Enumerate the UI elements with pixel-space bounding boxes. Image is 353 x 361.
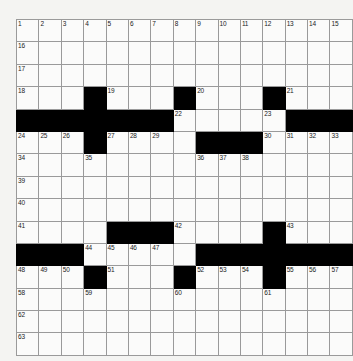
crossword-cell[interactable] bbox=[308, 311, 330, 333]
crossword-cell[interactable] bbox=[106, 64, 128, 86]
crossword-cell[interactable] bbox=[285, 311, 307, 333]
crossword-cell[interactable] bbox=[84, 221, 106, 243]
crossword-cell[interactable] bbox=[196, 42, 218, 64]
crossword-cell[interactable] bbox=[128, 64, 150, 86]
crossword-cell[interactable]: 41 bbox=[17, 221, 39, 243]
crossword-cell[interactable] bbox=[151, 311, 173, 333]
crossword-cell[interactable] bbox=[240, 64, 262, 86]
crossword-cell[interactable] bbox=[308, 288, 330, 310]
crossword-cell[interactable]: 23 bbox=[263, 109, 285, 131]
crossword-cell[interactable] bbox=[285, 154, 307, 176]
crossword-cell[interactable]: 22 bbox=[173, 109, 195, 131]
crossword-cell[interactable] bbox=[196, 109, 218, 131]
crossword-cell[interactable]: 57 bbox=[330, 266, 352, 288]
crossword-cell[interactable] bbox=[128, 311, 150, 333]
crossword-cell[interactable] bbox=[39, 154, 61, 176]
crossword-cell[interactable]: 6 bbox=[128, 20, 150, 42]
crossword-cell[interactable]: 11 bbox=[240, 20, 262, 42]
crossword-cell[interactable] bbox=[173, 311, 195, 333]
crossword-cell[interactable] bbox=[218, 64, 240, 86]
crossword-cell[interactable] bbox=[39, 199, 61, 221]
crossword-cell[interactable] bbox=[39, 333, 61, 355]
crossword-cell[interactable]: 2 bbox=[39, 20, 61, 42]
crossword-cell[interactable] bbox=[218, 42, 240, 64]
crossword-cell[interactable]: 40 bbox=[17, 199, 39, 221]
crossword-cell[interactable] bbox=[263, 64, 285, 86]
crossword-cell[interactable]: 34 bbox=[17, 154, 39, 176]
crossword-cell[interactable] bbox=[61, 221, 83, 243]
crossword-cell[interactable] bbox=[39, 288, 61, 310]
crossword-cell[interactable] bbox=[308, 87, 330, 109]
crossword-cell[interactable] bbox=[330, 311, 352, 333]
crossword-cell[interactable]: 33 bbox=[330, 131, 352, 153]
crossword-cell[interactable] bbox=[128, 42, 150, 64]
crossword-cell[interactable] bbox=[263, 154, 285, 176]
crossword-cell[interactable] bbox=[151, 176, 173, 198]
crossword-cell[interactable]: 18 bbox=[17, 87, 39, 109]
crossword-cell[interactable] bbox=[106, 333, 128, 355]
crossword-cell[interactable] bbox=[218, 199, 240, 221]
crossword-cell[interactable]: 1 bbox=[17, 20, 39, 42]
crossword-cell[interactable] bbox=[330, 288, 352, 310]
crossword-cell[interactable] bbox=[106, 288, 128, 310]
crossword-cell[interactable]: 60 bbox=[173, 288, 195, 310]
crossword-cell[interactable]: 8 bbox=[173, 20, 195, 42]
crossword-cell[interactable]: 49 bbox=[39, 266, 61, 288]
crossword-cell[interactable] bbox=[173, 64, 195, 86]
crossword-cell[interactable] bbox=[263, 333, 285, 355]
crossword-cell[interactable]: 5 bbox=[106, 20, 128, 42]
crossword-cell[interactable]: 37 bbox=[218, 154, 240, 176]
crossword-cell[interactable] bbox=[173, 154, 195, 176]
crossword-cell[interactable] bbox=[308, 199, 330, 221]
crossword-cell[interactable] bbox=[196, 333, 218, 355]
crossword-cell[interactable] bbox=[218, 176, 240, 198]
crossword-cell[interactable] bbox=[106, 42, 128, 64]
crossword-cell[interactable] bbox=[240, 221, 262, 243]
crossword-cell[interactable]: 29 bbox=[151, 131, 173, 153]
crossword-cell[interactable] bbox=[330, 154, 352, 176]
crossword-cell[interactable] bbox=[61, 311, 83, 333]
crossword-cell[interactable] bbox=[106, 176, 128, 198]
crossword-cell[interactable] bbox=[61, 42, 83, 64]
crossword-cell[interactable] bbox=[240, 176, 262, 198]
crossword-cell[interactable]: 16 bbox=[17, 42, 39, 64]
crossword-cell[interactable] bbox=[128, 288, 150, 310]
crossword-cell[interactable] bbox=[128, 333, 150, 355]
crossword-cell[interactable]: 12 bbox=[263, 20, 285, 42]
crossword-cell[interactable] bbox=[61, 288, 83, 310]
crossword-cell[interactable] bbox=[263, 199, 285, 221]
crossword-cell[interactable]: 30 bbox=[263, 131, 285, 153]
crossword-cell[interactable] bbox=[39, 176, 61, 198]
crossword-cell[interactable] bbox=[196, 64, 218, 86]
crossword-cell[interactable] bbox=[308, 42, 330, 64]
crossword-cell[interactable] bbox=[128, 87, 150, 109]
crossword-cell[interactable] bbox=[151, 199, 173, 221]
crossword-cell[interactable] bbox=[39, 221, 61, 243]
crossword-cell[interactable] bbox=[263, 42, 285, 64]
crossword-cell[interactable] bbox=[61, 199, 83, 221]
crossword-cell[interactable] bbox=[173, 199, 195, 221]
crossword-cell[interactable] bbox=[61, 154, 83, 176]
crossword-cell[interactable] bbox=[308, 333, 330, 355]
crossword-cell[interactable] bbox=[240, 311, 262, 333]
crossword-cell[interactable] bbox=[84, 42, 106, 64]
crossword-cell[interactable] bbox=[285, 176, 307, 198]
crossword-cell[interactable]: 28 bbox=[128, 131, 150, 153]
crossword-cell[interactable]: 62 bbox=[17, 311, 39, 333]
crossword-cell[interactable] bbox=[173, 176, 195, 198]
crossword-cell[interactable] bbox=[151, 333, 173, 355]
crossword-cell[interactable] bbox=[151, 87, 173, 109]
crossword-cell[interactable]: 32 bbox=[308, 131, 330, 153]
crossword-cell[interactable] bbox=[330, 333, 352, 355]
crossword-cell[interactable] bbox=[218, 333, 240, 355]
crossword-cell[interactable]: 36 bbox=[196, 154, 218, 176]
crossword-grid[interactable]: 1234567891011121314151617181920212223242… bbox=[16, 19, 353, 356]
crossword-cell[interactable] bbox=[151, 154, 173, 176]
crossword-cell[interactable] bbox=[196, 199, 218, 221]
crossword-cell[interactable] bbox=[263, 311, 285, 333]
crossword-cell[interactable]: 4 bbox=[84, 20, 106, 42]
crossword-cell[interactable]: 43 bbox=[285, 221, 307, 243]
crossword-cell[interactable] bbox=[240, 109, 262, 131]
crossword-cell[interactable]: 58 bbox=[17, 288, 39, 310]
crossword-cell[interactable] bbox=[330, 221, 352, 243]
